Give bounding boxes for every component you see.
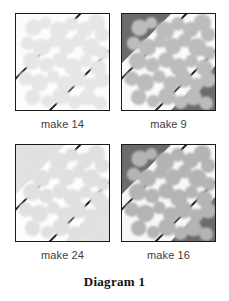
panel-cell-3: make 24 [15,144,110,262]
panel-2-caption: make 9 [121,118,216,131]
panel-1-caption: make 14 [15,118,110,131]
panel-2-band [122,14,215,110]
panel-3-inner [16,145,109,241]
panel-cell-2: make 9 [121,13,216,131]
panel-1-inner [16,14,109,110]
panel-3-band [16,145,109,241]
panel-3-caption: make 24 [15,249,110,262]
texture-panel-1[interactable] [15,13,110,111]
panel-4-inner [122,145,215,241]
panel-cell-4: make 16 [121,144,216,262]
panel-cell-1: make 14 [15,13,110,131]
panel-4-band [122,145,215,241]
diagram-figure: make 14 make 9 [0,0,229,301]
panel-1-band [16,14,109,110]
figure-title: Diagram 1 [0,274,229,290]
panel-4-caption: make 16 [121,249,216,262]
texture-panel-4[interactable] [121,144,216,242]
panel-grid: make 14 make 9 [0,0,229,272]
texture-panel-3[interactable] [15,144,110,242]
panel-2-inner [122,14,215,110]
texture-panel-2[interactable] [121,13,216,111]
